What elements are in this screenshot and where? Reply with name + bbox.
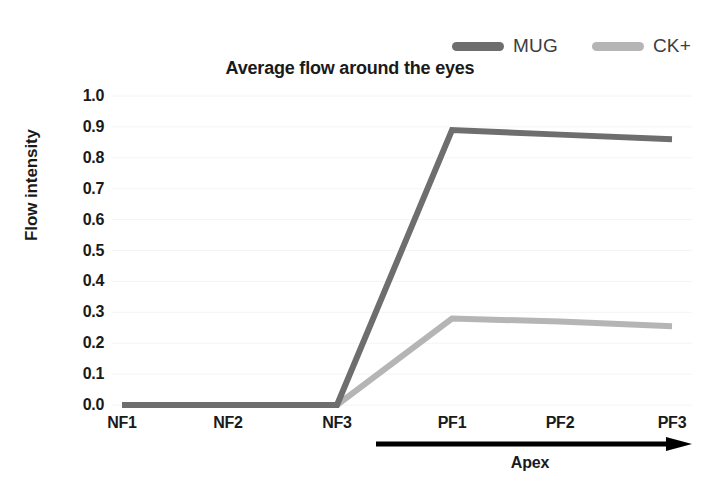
x-axis-tick-labels: NF1NF2NF3PF1PF2PF3 bbox=[0, 414, 721, 438]
y-tick-label: 0.1 bbox=[58, 365, 104, 383]
y-tick-label: 0.3 bbox=[58, 303, 104, 321]
apex-label: Apex bbox=[370, 454, 690, 472]
chart-title: Average flow around the eyes bbox=[120, 58, 580, 79]
y-tick-label: 0.6 bbox=[58, 211, 104, 229]
plot-canvas bbox=[112, 90, 692, 412]
x-tick-label: NF3 bbox=[297, 414, 377, 432]
apex-annotation: Apex bbox=[370, 436, 700, 484]
y-tick-label: 0.8 bbox=[58, 149, 104, 167]
y-tick-label: 1.0 bbox=[58, 87, 104, 105]
x-tick-label: PF1 bbox=[412, 414, 492, 432]
flow-intensity-line-chart: MUG CK+ Average flow around the eyes Flo… bbox=[0, 0, 721, 497]
plot-area bbox=[112, 90, 692, 412]
legend-swatch-mug bbox=[452, 42, 504, 51]
y-tick-label: 0.4 bbox=[58, 272, 104, 290]
y-tick-label: 0.0 bbox=[58, 396, 104, 414]
legend-label-mug: MUG bbox=[513, 35, 558, 57]
series-line-ckplus bbox=[122, 318, 672, 405]
legend-swatch-ckplus bbox=[592, 42, 644, 51]
x-tick-label: NF2 bbox=[188, 414, 268, 432]
y-tick-label: 0.5 bbox=[58, 242, 104, 260]
legend-label-ckplus: CK+ bbox=[653, 35, 691, 57]
apex-arrow-icon bbox=[370, 436, 695, 452]
legend-entry-mug: MUG bbox=[452, 35, 558, 57]
x-tick-label: PF3 bbox=[632, 414, 712, 432]
y-tick-label: 0.7 bbox=[58, 180, 104, 198]
x-tick-label: NF1 bbox=[82, 414, 162, 432]
x-tick-label: PF2 bbox=[520, 414, 600, 432]
series-line-mug bbox=[122, 130, 672, 405]
y-tick-label: 0.9 bbox=[58, 118, 104, 136]
y-axis-title: Flow intensity bbox=[22, 90, 42, 280]
legend-entry-ckplus: CK+ bbox=[592, 35, 691, 57]
y-tick-label: 0.2 bbox=[58, 334, 104, 352]
chart-legend: MUG CK+ bbox=[452, 34, 717, 58]
